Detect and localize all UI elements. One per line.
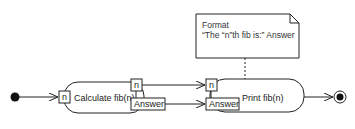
pin-calc-input-n-label: n	[62, 92, 67, 102]
pin-calc-output-n-label: n	[134, 80, 139, 90]
pin-print-input-answer-label: Answer	[209, 99, 239, 109]
action-calculate-label: Calculate fib(n)	[74, 93, 135, 103]
action-print-label: Print fib(n)	[242, 93, 284, 103]
initial-node	[11, 93, 20, 102]
note-line-1: Format	[202, 20, 230, 30]
pin-print-input-n-label: n	[209, 80, 214, 90]
note-line-2: “The “n”th fib is:” Answer	[202, 30, 295, 40]
final-node-inner	[337, 94, 344, 101]
pin-calc-output-answer-label: Answer	[134, 99, 164, 109]
